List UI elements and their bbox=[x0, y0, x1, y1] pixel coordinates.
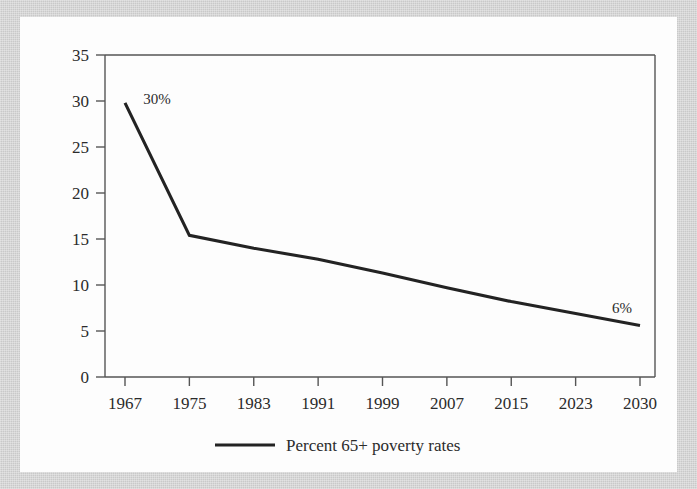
y-axis-tick-label: 0 bbox=[81, 368, 90, 387]
x-axis-tick-label: 1983 bbox=[237, 394, 271, 413]
chart-svg: 05101520253035 1967197519831991199920072… bbox=[20, 17, 677, 472]
data-point-annotation: 30% bbox=[143, 91, 171, 107]
y-axis-tick-label: 30 bbox=[72, 92, 89, 111]
y-axis-tick-label: 5 bbox=[81, 322, 90, 341]
x-axis: 196719751983199119992007201520232030 bbox=[108, 377, 657, 413]
figure-outer-frame: 05101520253035 1967197519831991199920072… bbox=[0, 0, 697, 489]
x-axis-tick-label: 2015 bbox=[494, 394, 528, 413]
x-axis-tick-label: 1999 bbox=[366, 394, 400, 413]
plot-frame bbox=[105, 55, 655, 377]
y-axis-tick-label: 20 bbox=[72, 184, 89, 203]
x-axis-tick-label: 2023 bbox=[559, 394, 593, 413]
data-point-annotation: 6% bbox=[612, 300, 632, 316]
legend-label-percent-65-poverty-rates: Percent 65+ poverty rates bbox=[286, 436, 460, 455]
line-chart: 05101520253035 1967197519831991199920072… bbox=[20, 17, 677, 472]
y-axis-tick-label: 35 bbox=[72, 46, 89, 65]
figure-card: 05101520253035 1967197519831991199920072… bbox=[20, 17, 677, 472]
series-line-percent-65-poverty-rates bbox=[125, 103, 640, 326]
data-annotations: 30%6% bbox=[143, 91, 632, 317]
x-axis-tick-label: 2007 bbox=[430, 394, 465, 413]
x-axis-tick-label: 1967 bbox=[108, 394, 143, 413]
x-axis-tick-label: 1991 bbox=[301, 394, 335, 413]
y-axis-tick-label: 10 bbox=[72, 276, 89, 295]
y-axis: 05101520253035 bbox=[72, 46, 105, 387]
x-axis-tick-label: 1975 bbox=[172, 394, 206, 413]
y-axis-tick-label: 15 bbox=[72, 230, 89, 249]
chart-legend: Percent 65+ poverty rates bbox=[215, 436, 460, 455]
x-axis-tick-label: 2030 bbox=[623, 394, 657, 413]
y-axis-tick-label: 25 bbox=[72, 138, 89, 157]
